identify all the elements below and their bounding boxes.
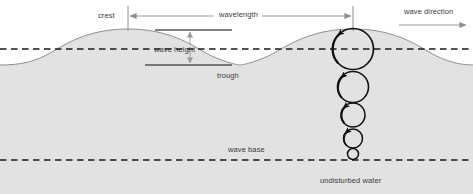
wave-direction-label: wave direction (404, 8, 453, 16)
wave-height-label: wave height (154, 46, 195, 54)
wave-diagram: crest wavelength wave direction wave hei… (0, 0, 473, 194)
water-body (0, 29, 473, 194)
wave-base-label: wave base (228, 146, 265, 154)
wave-diagram-canvas (0, 0, 473, 194)
crest-label: crest (98, 12, 115, 20)
wavelength-label: wavelength (219, 11, 258, 19)
trough-label: trough (217, 72, 239, 80)
undisturbed-water-label: undisturbed water (320, 177, 381, 185)
water-fill (0, 29, 473, 194)
